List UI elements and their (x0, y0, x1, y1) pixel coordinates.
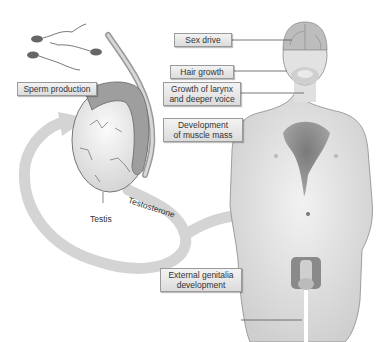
label-hair-growth: Hair growth (170, 65, 234, 79)
label-muscle-mass: Development of muscle mass (163, 118, 243, 142)
testis-illustration (72, 82, 149, 203)
sperm-cells (27, 24, 102, 70)
label-external-genitalia: External genitalia development (160, 268, 242, 292)
label-larynx-voice: Growth of larynx and deeper voice (163, 82, 241, 106)
label-testis: Testis (90, 214, 112, 224)
label-sex-drive: Sex drive (174, 33, 232, 47)
male-body-illustration (230, 22, 373, 342)
label-sperm-production: Sperm production (17, 82, 97, 96)
